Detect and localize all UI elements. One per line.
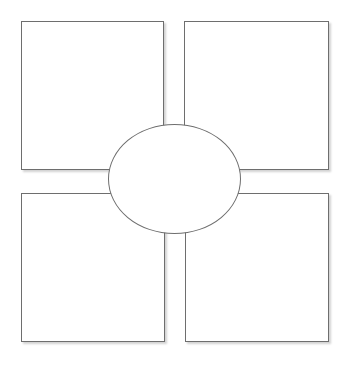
center-oval xyxy=(108,124,241,234)
